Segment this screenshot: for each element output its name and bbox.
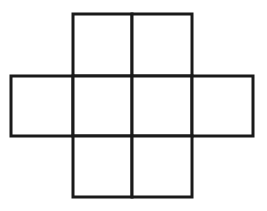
square-net-diagram (0, 0, 267, 211)
top-row-square-1 (73, 14, 132, 76)
middle-row-square-3 (192, 76, 253, 136)
top-row-square-2 (132, 14, 192, 76)
middle-row-square-2 (132, 76, 192, 136)
middle-row-square-0 (11, 76, 73, 136)
bottom-row-square-2 (132, 136, 192, 197)
bottom-row-square-1 (73, 136, 132, 197)
middle-row-square-1 (73, 76, 132, 136)
cell-group (11, 14, 253, 197)
